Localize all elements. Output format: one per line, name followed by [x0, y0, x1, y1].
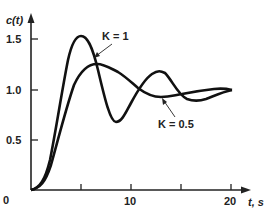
- x-tick-label-10: 10: [124, 195, 136, 207]
- annotation-k05: K = 0.5: [158, 118, 194, 130]
- annotation-k05-leader: [164, 101, 175, 117]
- y-axis-label: c(t): [6, 14, 23, 26]
- x-axis-arrow-icon: [241, 187, 251, 194]
- series-k1-line: [31, 36, 232, 190]
- y-axis-arrow-icon: [28, 13, 35, 23]
- chart: 0.5 1.0 1.5 0 10 20 c(t) t, s K = 1 K = …: [0, 0, 273, 220]
- series-k05-line: [31, 64, 232, 190]
- origin-label: 0: [3, 194, 9, 206]
- x-axis-label: t, s: [248, 196, 264, 208]
- x-tick-label-20: 20: [224, 195, 236, 207]
- y-tick-label-1.5: 1.5: [6, 33, 21, 45]
- annotation-k1: K = 1: [102, 30, 129, 42]
- y-tick-label-0.5: 0.5: [6, 134, 21, 146]
- y-tick-label-1.0: 1.0: [6, 84, 21, 96]
